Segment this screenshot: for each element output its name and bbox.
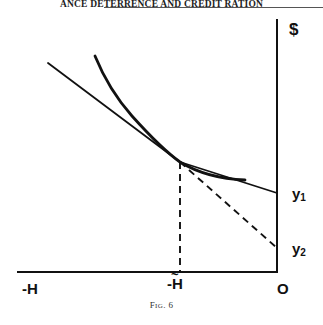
tilde-accent-icon: ~ xyxy=(171,268,179,281)
figure-page: ANCE DETERRENCE AND CREDIT RATION $ y1 y… xyxy=(0,0,323,325)
y2-intercept-label: y2 xyxy=(292,241,306,258)
dashed-chord-to-y2 xyxy=(180,162,277,248)
tangent-line-solid xyxy=(48,63,277,193)
convex-curve-thick xyxy=(95,56,245,180)
y-axis-currency-label: $ xyxy=(289,21,298,38)
y1-intercept-label: y1 xyxy=(292,186,306,203)
figure-caption: FIG. 6 xyxy=(0,300,323,310)
x-axis-tangency-label-wrap: -H ~ xyxy=(167,276,183,291)
y2-subscript: 2 xyxy=(300,247,306,258)
y1-subscript: 1 xyxy=(300,192,306,203)
x-axis-tangency-label: -H ~ xyxy=(167,276,183,291)
x-axis-left-endpoint-label: -H xyxy=(22,281,38,296)
figure-caption-suffix: . 6 xyxy=(163,300,173,310)
origin-label: O xyxy=(277,281,289,296)
figure-drawing xyxy=(0,0,323,325)
